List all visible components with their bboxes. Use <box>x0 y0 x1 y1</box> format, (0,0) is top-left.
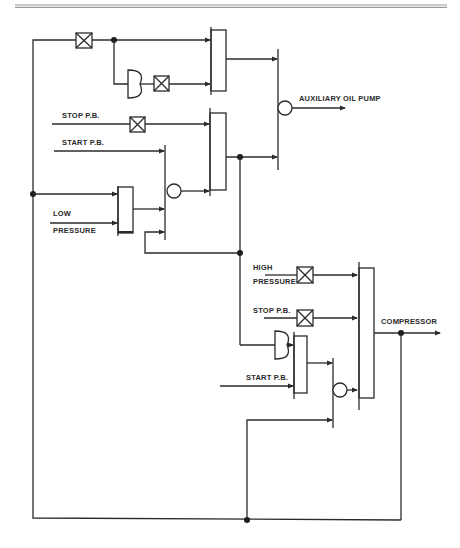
top-rule <box>15 5 447 7</box>
x-box-icon <box>154 76 169 91</box>
logic-diagram: STOP P.B. START P.B. AUXILIARY OIL PUMP … <box>0 0 460 548</box>
junction-dot <box>237 250 243 256</box>
high-pressure-label: PRESSURE <box>253 277 296 286</box>
stop-pb-lower-label: STOP P.B. <box>253 306 291 315</box>
or-gate-5 <box>359 262 374 410</box>
stop-pb-upper-label: STOP P.B. <box>62 111 100 120</box>
x-box-icon <box>297 267 313 283</box>
or-gate-1 <box>211 27 226 95</box>
memory-circle-icon <box>167 184 181 198</box>
memory-circle-icon <box>333 383 347 397</box>
and-gate-icon <box>128 70 142 98</box>
memory-circle-icon <box>278 101 292 115</box>
start-pb-upper-label: START P.B. <box>62 138 104 147</box>
or-gate-3 <box>118 186 133 236</box>
x-box-icon <box>297 310 313 326</box>
high-label: HIGH <box>253 263 273 272</box>
low-pressure-label: PRESSURE <box>53 226 96 235</box>
compressor-label: COMPRESSOR <box>381 317 438 326</box>
and-gate-icon <box>275 331 289 359</box>
x-box-icon <box>130 117 145 132</box>
auxiliary-oil-pump-label: AUXILIARY OIL PUMP <box>299 94 381 103</box>
low-label: LOW <box>53 209 72 218</box>
or-gate-2 <box>210 108 226 196</box>
or-gate-4 <box>294 332 307 399</box>
start-pb-lower-label: START P.B. <box>246 373 288 382</box>
junction-dot <box>244 517 250 523</box>
x-box-icon-top <box>76 33 92 48</box>
